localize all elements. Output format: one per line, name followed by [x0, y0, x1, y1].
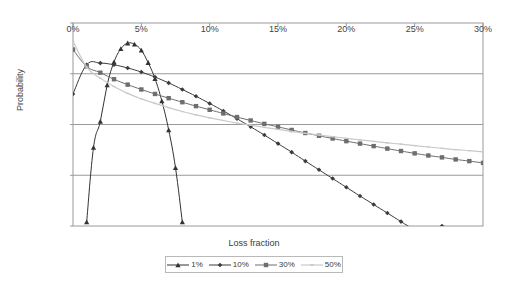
data-point-marker [454, 149, 457, 150]
data-point-marker [84, 219, 89, 224]
data-point-marker [481, 161, 485, 165]
data-point-marker [412, 228, 417, 233]
data-point-marker [399, 149, 403, 153]
x-tick-label: 25% [395, 25, 435, 34]
data-point-marker [222, 120, 225, 121]
data-point-marker [453, 157, 457, 161]
data-point-marker [98, 119, 103, 124]
data-point-marker [248, 118, 252, 122]
data-point-marker [276, 141, 281, 146]
x-tick-label: 10% [190, 25, 230, 34]
data-point-marker [331, 136, 334, 137]
legend-item-10[interactable]: 10% [206, 260, 252, 270]
data-point-marker [344, 139, 348, 143]
data-point-marker [399, 219, 404, 224]
data-point-marker [413, 145, 416, 146]
data-point-marker [371, 144, 375, 148]
data-point-marker [236, 122, 239, 123]
data-point-marker [276, 125, 280, 129]
data-point-marker [98, 70, 102, 74]
data-point-marker [166, 127, 171, 132]
x-tick-label: 30% [463, 25, 503, 34]
data-point-marker [195, 114, 198, 115]
x-tick-label: 15% [258, 25, 298, 34]
legend-marker-icon [209, 260, 231, 270]
data-point-marker [440, 224, 445, 229]
legend-marker-icon [301, 260, 323, 270]
data-point-marker [358, 141, 362, 145]
data-point-marker [126, 93, 129, 94]
data-point-marker [441, 148, 444, 149]
data-point-marker [71, 92, 76, 97]
data-point-marker [207, 108, 211, 112]
data-point-marker [166, 81, 171, 86]
data-point-marker [125, 66, 130, 71]
data-point-marker [166, 96, 170, 100]
data-point-marker [426, 153, 430, 157]
data-point-marker [221, 111, 225, 115]
legend-marker-shape [310, 264, 314, 266]
data-point-marker [371, 202, 376, 207]
data-point-marker [154, 103, 157, 104]
legend-item-label: 10% [233, 261, 249, 269]
x-tick-label: 0% [53, 25, 93, 34]
data-point-marker [262, 122, 266, 126]
data-point-marker [146, 60, 151, 65]
chart-figure: Probability 100.00%10.00%1.00%0.10%0.01%… [0, 0, 508, 290]
data-point-marker [318, 134, 321, 135]
data-point-marker [385, 146, 389, 150]
data-point-marker [125, 82, 129, 86]
legend-item-label: 50% [325, 261, 341, 269]
data-point-marker [208, 117, 211, 118]
data-point-marker [91, 145, 96, 150]
data-point-marker [304, 133, 307, 134]
data-point-marker [386, 142, 389, 143]
legend-marker-shape [217, 262, 222, 267]
legend-item-30[interactable]: 30% [252, 260, 298, 270]
data-point-marker [262, 133, 267, 138]
data-point-marker [482, 151, 485, 152]
series-10 [71, 61, 445, 241]
data-point-marker [139, 87, 143, 91]
legend-item-50[interactable]: 50% [298, 260, 344, 270]
data-point-marker [98, 61, 103, 66]
data-point-marker [194, 104, 198, 108]
series-50 [72, 40, 485, 152]
legend-marker-shape [264, 262, 268, 266]
data-point-marker [180, 87, 185, 92]
legend-item-1[interactable]: 1% [164, 260, 206, 270]
data-point-marker [427, 146, 430, 147]
data-point-marker [159, 98, 164, 103]
data-point-marker [467, 159, 471, 163]
data-point-marker [235, 115, 239, 119]
legend-marker-icon [167, 260, 189, 270]
legend-item-label: 30% [279, 261, 295, 269]
x-tick-label: 5% [121, 25, 161, 34]
data-point-marker [173, 165, 178, 170]
data-point-marker [140, 98, 143, 99]
data-point-marker [400, 144, 403, 145]
data-point-marker [249, 125, 252, 126]
data-point-marker [167, 107, 170, 108]
data-point-marker [372, 141, 375, 142]
data-point-marker [71, 47, 75, 51]
x-axis-title: Loss fraction [0, 238, 508, 248]
series-1 [84, 41, 185, 225]
data-point-marker [345, 138, 348, 139]
data-point-marker [132, 42, 137, 47]
data-point-marker [468, 150, 471, 151]
data-point-marker [180, 100, 184, 104]
data-point-marker [181, 111, 184, 112]
y-axis-title: Probability [15, 91, 25, 111]
data-point-marker [277, 129, 280, 130]
data-point-marker [99, 77, 102, 78]
data-point-marker [85, 66, 88, 67]
data-point-marker [440, 155, 444, 159]
data-point-marker [112, 77, 116, 81]
legend-marker-icon [255, 260, 277, 270]
data-point-marker [72, 40, 75, 41]
chart-legend: 1%10%30%50% [165, 256, 343, 273]
data-point-marker [113, 86, 116, 87]
data-point-marker [194, 94, 199, 99]
legend-item-label: 1% [191, 261, 203, 269]
